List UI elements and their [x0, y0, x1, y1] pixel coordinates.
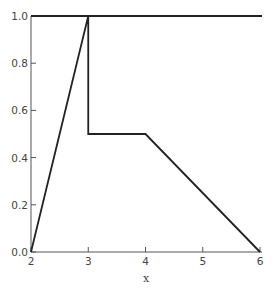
- y-tick-label: 0.8: [11, 57, 28, 69]
- x-tick-label: 3: [85, 255, 92, 267]
- y-tick-label: 0.0: [11, 246, 28, 258]
- x-axis-title: x: [143, 272, 150, 285]
- series-line: [31, 16, 260, 252]
- chart: 0.00.20.40.60.81.0 23456 x: [0, 0, 277, 288]
- y-tick-label: 1.0: [11, 10, 28, 22]
- x-tick-label: 5: [199, 255, 206, 267]
- x-tick-label: 6: [257, 255, 264, 267]
- y-tick-label: 0.6: [11, 104, 28, 116]
- x-tick-label: 2: [28, 255, 35, 267]
- series-lines: [31, 16, 262, 252]
- x-ticks: 23456: [28, 247, 264, 267]
- y-tick-label: 0.2: [11, 199, 28, 211]
- y-tick-label: 0.4: [11, 152, 28, 164]
- y-ticks: 0.00.20.40.60.81.0: [11, 10, 36, 258]
- x-tick-label: 4: [142, 255, 149, 267]
